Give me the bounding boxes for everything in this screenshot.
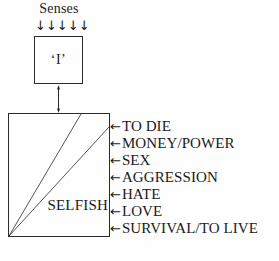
drive-label: HATE <box>122 186 161 203</box>
drive-row: ← SURVIVAL/TO LIVE <box>110 220 279 237</box>
senses-arrow-row: ↓ ↓ ↓ ↓ ↓ <box>34 17 84 34</box>
down-arrow-icon: ↓ <box>68 19 79 32</box>
drive-label: AGGRESSION <box>122 169 218 186</box>
drive-label: TO DIE <box>122 118 171 135</box>
self-box: ‘I’ <box>34 36 83 84</box>
left-arrow-icon: ← <box>110 137 121 150</box>
drive-label: SEX <box>122 152 151 169</box>
concept-diagram: Senses ↓ ↓ ↓ ↓ ↓ ‘I’ SELFISH ← TO DIE ← … <box>0 0 279 261</box>
drive-label: SURVIVAL/TO LIVE <box>122 220 258 237</box>
left-arrow-icon: ← <box>110 222 121 235</box>
drive-row: ← TO DIE <box>110 118 279 135</box>
senses-label: Senses <box>34 0 84 17</box>
drive-row: ← HATE <box>110 186 279 203</box>
bidirectional-arrow-icon <box>57 85 60 113</box>
left-arrow-icon: ← <box>110 205 121 218</box>
down-arrow-icon: ↓ <box>46 19 57 32</box>
drives-list: ← TO DIE ← MONEY/POWER ← SEX ← AGGRESSIO… <box>110 118 279 237</box>
drive-row: ← SEX <box>110 152 279 169</box>
selfish-caption: SELFISH <box>8 197 108 214</box>
selfish-box-diagonals <box>9 114 109 236</box>
down-arrow-icon: ↓ <box>57 19 68 32</box>
drive-row: ← MONEY/POWER <box>110 135 279 152</box>
left-arrow-icon: ← <box>110 188 121 201</box>
left-arrow-icon: ← <box>110 171 121 184</box>
down-arrow-icon: ↓ <box>35 19 46 32</box>
drive-label: LOVE <box>122 203 162 220</box>
self-box-label: ‘I’ <box>51 53 67 67</box>
left-arrow-icon: ← <box>110 154 121 167</box>
drive-row: ← LOVE <box>110 203 279 220</box>
selfish-box <box>8 113 110 237</box>
left-arrow-icon: ← <box>110 120 121 133</box>
drive-row: ← AGGRESSION <box>110 169 279 186</box>
down-arrow-icon: ↓ <box>79 19 90 32</box>
drive-label: MONEY/POWER <box>122 135 235 152</box>
